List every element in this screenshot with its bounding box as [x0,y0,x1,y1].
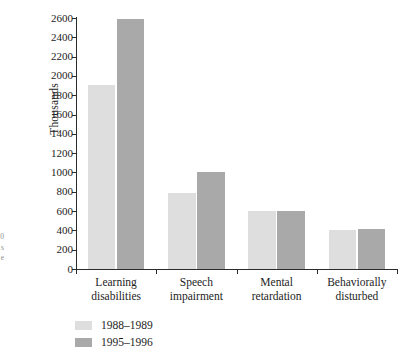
x-axis-category-label: Behaviorallydisturbed [317,276,397,303]
legend-label-2: 1995–1996 [101,336,153,348]
category-label-line: disturbed [317,290,397,304]
y-axis-tick-label: 1800 [31,90,73,101]
x-axis-category-label: Speechimpairment [156,276,236,303]
y-axis-tick-label: 1400 [31,128,73,139]
y-axis-tick-label: 0 [31,264,73,275]
x-axis-start-tick [76,269,77,274]
legend-item-2: 1995–1996 [75,335,153,349]
category-label-line: Speech [156,276,236,290]
category-label-line: disabilities [76,290,156,304]
y-axis-tick-label: 400 [31,225,73,236]
x-axis-group-tick [156,269,157,274]
y-axis-tick-label: 2000 [31,70,73,81]
bar-2-series-2 [197,172,225,270]
y-axis-tick-label: 800 [31,186,73,197]
bar-2-series-1 [168,193,196,269]
margin-fragment-line-1: 0 [0,232,4,243]
y-axis-tick-label: 1600 [31,109,73,120]
x-axis-end-tick [397,269,398,274]
category-label-line: impairment [156,290,236,304]
bar-4-series-2 [358,229,386,269]
legend-item-1: 1988–1989 [75,318,153,332]
x-axis-group-tick [237,269,238,274]
x-axis-category-label: Learningdisabilities [76,276,156,303]
plot-area: 0200400600800100012001400160018002000220… [76,18,397,269]
bar-3-series-2 [277,211,305,269]
y-axis-tick-label: 200 [31,244,73,255]
chart-legend: 1988–19891995–1996 [75,318,153,352]
y-axis-tick-label: 2400 [31,32,73,43]
y-axis-tick-label: 1000 [31,167,73,178]
category-label-line: retardation [237,290,317,304]
bar-1-series-1 [88,85,116,269]
category-label-line: Learning [76,276,156,290]
x-axis-category-label: Mentalretardation [237,276,317,303]
y-axis-tick-label: 2600 [31,13,73,24]
bar-4-series-1 [329,230,357,269]
margin-fragment-line-2: s [0,243,4,254]
x-axis-group-tick [317,269,318,274]
legend-swatch-1 [75,321,92,330]
y-axis-tick-label: 2200 [31,51,73,62]
y-axis-tick-label: 1200 [31,148,73,159]
y-axis-tick-label: 600 [31,206,73,217]
category-label-line: Behaviorally [317,276,397,290]
legend-label-1: 1988–1989 [101,319,153,331]
bar-3-series-1 [248,211,276,269]
category-label-line: Mental [237,276,317,290]
bar-chart-figure: 0 s e Thousands 020040060080010001200140… [0,0,418,361]
y-axis-line [76,17,77,270]
margin-caption-fragment: 0 s e [0,232,4,264]
legend-swatch-2 [75,338,92,347]
margin-fragment-line-3: e [0,253,4,264]
bar-1-series-2 [117,19,145,269]
